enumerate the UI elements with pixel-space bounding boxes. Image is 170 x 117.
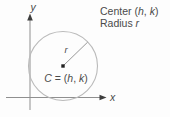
- diagram-canvas: y x r C = (h, k) Center (h, k) Radius r: [0, 0, 170, 117]
- y-axis-label: y: [29, 1, 36, 13]
- center-label-close: ): [84, 72, 88, 84]
- caption-radius-line: Radius r: [100, 17, 140, 29]
- caption-radius-prefix: Radius: [100, 17, 136, 29]
- x-axis-arrowhead-icon: [100, 95, 107, 101]
- caption-center-line: Center (h, k): [100, 5, 158, 17]
- circle-diagram: y x r C = (h, k) Center (h, k) Radius r: [0, 0, 170, 117]
- y-axis-arrowhead-icon: [27, 14, 33, 21]
- center-label-eq: = (: [52, 72, 68, 84]
- x-axis-label: x: [109, 91, 116, 103]
- radius-label: r: [65, 44, 69, 55]
- center-point: [61, 64, 64, 67]
- caption-center-close: ): [155, 5, 159, 17]
- caption-radius-var: r: [136, 17, 140, 29]
- caption-center-prefix: Center (: [100, 5, 138, 17]
- center-label: C = (h, k): [44, 72, 88, 84]
